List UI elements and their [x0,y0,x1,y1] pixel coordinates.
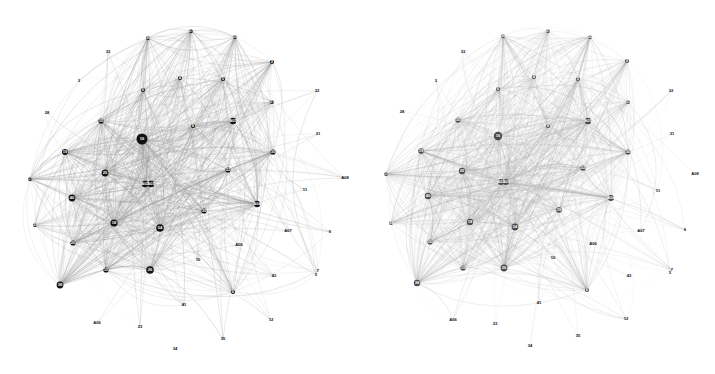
edge-layer [386,27,695,346]
network-node[interactable]: 37 [626,99,631,104]
network-node[interactable]: 43 [627,273,632,278]
network-node[interactable]: 7 [317,268,320,273]
network-node[interactable]: 9 [329,229,332,234]
network-node[interactable]: 36 [146,35,151,40]
network-node[interactable]: 27 [189,28,194,33]
network-node[interactable]: 16 [494,132,502,140]
network-node[interactable]: 16 [137,134,148,145]
network-node[interactable]: 35 [455,117,461,122]
network-node[interactable]: 39 [556,207,562,213]
network-node[interactable]: 9 [684,227,687,232]
network-node[interactable]: 19 [62,149,68,155]
network-node[interactable]: 12 [624,316,629,321]
network-node[interactable]: 31 [316,131,321,136]
network-node[interactable]: 5 [576,76,580,81]
network-node[interactable]: A01 [584,118,592,124]
network-node[interactable]: 31 [670,131,675,136]
network-node[interactable]: 2 [270,59,274,64]
network-node[interactable]: 25 [102,170,109,177]
network-node[interactable]: 32 [315,88,320,93]
node-label: 25 [460,168,465,173]
network-edge [35,225,73,243]
network-node[interactable]: 27 [546,28,551,33]
network-node[interactable]: A08 [341,175,349,180]
node-label: 38 [415,280,420,285]
network-node[interactable]: A04 [253,201,261,207]
network-node[interactable]: 17 [384,171,389,176]
node-label: A08 [691,171,699,176]
network-node[interactable]: A06 [235,242,243,247]
node-label: A06 [589,241,597,246]
network-node[interactable]: 39 [201,208,207,213]
network-node[interactable]: 41 [537,300,542,305]
network-node[interactable]: 11 [303,187,308,192]
network-node[interactable]: 26 [146,266,154,274]
network-edge [46,113,65,152]
network-node[interactable]: 20 [427,239,433,244]
network-node[interactable]: 17 [28,176,33,181]
network-node[interactable]: A01 [229,118,237,124]
network-node[interactable]: 30 [625,149,631,154]
network-node[interactable]: 12 [269,317,274,322]
node-label: 32 [315,88,320,93]
network-node[interactable]: A06 [589,241,597,246]
network-node[interactable]: 7 [671,267,674,272]
network-node[interactable]: 40 [425,193,431,199]
network-node[interactable]: 38 [57,282,64,289]
network-node[interactable]: 23 [493,321,498,326]
network-node[interactable]: A02 [497,179,505,185]
network-node[interactable]: 54 [156,224,164,232]
network-node[interactable]: A02 [141,181,149,187]
network-node[interactable]: 25 [459,168,465,174]
network-node[interactable]: 34 [528,343,533,348]
network-node[interactable]: A07 [284,228,292,233]
network-node[interactable]: 10 [196,257,201,262]
network-node[interactable]: 34 [173,346,178,351]
network-node[interactable]: 3 [78,78,81,83]
network-node[interactable]: 40 [69,195,76,202]
network-node[interactable]: 18 [467,219,473,225]
network-node[interactable]: A08 [691,171,699,176]
network-svg-right: 3627253323453263728358A01311619301725A03… [358,0,715,374]
network-node[interactable]: 39 [33,222,38,227]
network-node[interactable]: A06 [93,320,101,325]
node-label: 35 [99,118,104,123]
network-node[interactable]: 18 [110,219,117,226]
network-node[interactable]: 30 [270,149,276,154]
node-label: A02 [497,179,505,184]
network-node[interactable]: 10 [551,255,556,260]
network-node[interactable]: 25 [588,34,593,39]
network-node[interactable]: 25 [233,34,238,39]
network-node[interactable]: 15 [103,267,109,272]
network-node[interactable]: A07 [637,228,645,233]
node-label: A06 [235,242,243,247]
network-node[interactable]: 36 [501,33,506,38]
network-node[interactable]: 28 [45,110,50,115]
network-node[interactable]: 28 [400,109,405,114]
network-node[interactable]: 20 [70,240,76,245]
network-node[interactable]: 41 [182,302,187,307]
network-node[interactable]: 37 [270,99,275,104]
network-node[interactable]: A06 [449,317,457,322]
network-node[interactable]: 22 [225,167,231,172]
network-node[interactable]: 35 [98,118,104,123]
network-node[interactable]: 54 [512,224,519,231]
network-node[interactable]: 32 [669,88,674,93]
network-node[interactable]: 33 [106,49,111,54]
network-node[interactable]: 35 [576,333,581,338]
network-node[interactable]: 3 [435,78,438,83]
network-node[interactable]: 22 [580,165,586,170]
network-node[interactable]: 33 [461,49,466,54]
network-node[interactable]: 39 [389,220,394,225]
network-node[interactable]: 35 [221,336,226,341]
network-node[interactable]: 15 [460,265,466,270]
network-node[interactable]: 19 [418,148,424,154]
network-node[interactable]: 38 [414,280,420,286]
network-node[interactable]: A04 [607,195,615,201]
network-node[interactable]: 23 [138,324,143,329]
network-node[interactable]: 11 [656,188,661,193]
network-node[interactable]: 26 [501,265,508,272]
node-label: 25 [233,34,238,39]
network-node[interactable]: 43 [272,273,277,278]
node-label: 37 [626,99,631,104]
